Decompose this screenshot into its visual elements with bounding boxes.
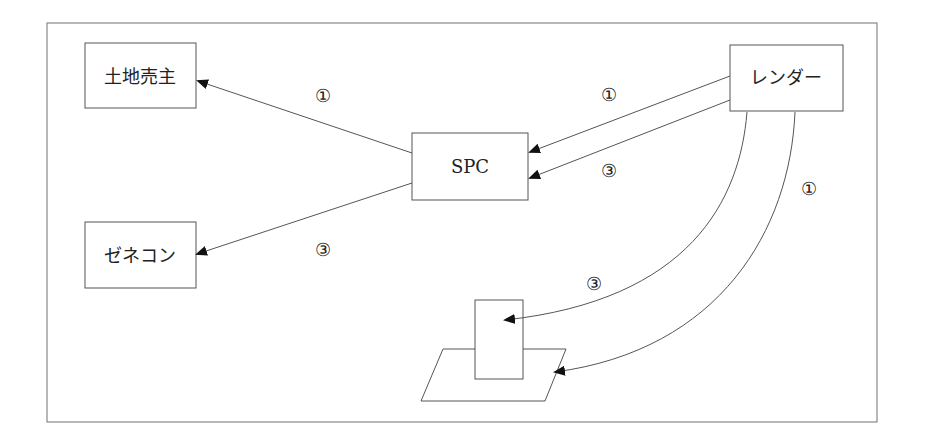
finance-structure-diagram: 土地売主 ゼネコン SPC レンダー ① ③ ① ③ ③ ①	[0, 0, 927, 447]
node-general-contractor: ゼネコン	[85, 222, 196, 288]
edge-label-lender-spc-3: ③	[601, 160, 617, 181]
edge-spc-to-landowner	[198, 81, 412, 153]
building-shape	[475, 300, 523, 379]
edge-spc-to-contractor	[197, 183, 412, 254]
node-spc: SPC	[412, 133, 528, 200]
edge-label-lender-spc-1: ①	[601, 84, 617, 105]
edge-label-lender-land: ①	[801, 178, 817, 199]
node-landowner-label: 土地売主	[104, 66, 176, 87]
node-lender-label: レンダー	[750, 67, 822, 88]
node-lender: レンダー	[730, 45, 843, 111]
node-spc-label: SPC	[451, 156, 489, 177]
node-general-contractor-label: ゼネコン	[104, 245, 176, 266]
edge-lender-to-spc-3	[530, 100, 730, 178]
edge-lender-to-land	[555, 112, 795, 372]
edge-lender-to-spc-1	[530, 76, 730, 152]
edge-label-spc-contractor: ③	[315, 239, 331, 260]
edge-lender-to-building	[505, 112, 747, 320]
edge-label-spc-landowner: ①	[315, 85, 331, 106]
node-landowner: 土地売主	[85, 43, 196, 108]
edge-label-lender-building: ③	[586, 273, 602, 294]
property-icon	[421, 300, 566, 401]
